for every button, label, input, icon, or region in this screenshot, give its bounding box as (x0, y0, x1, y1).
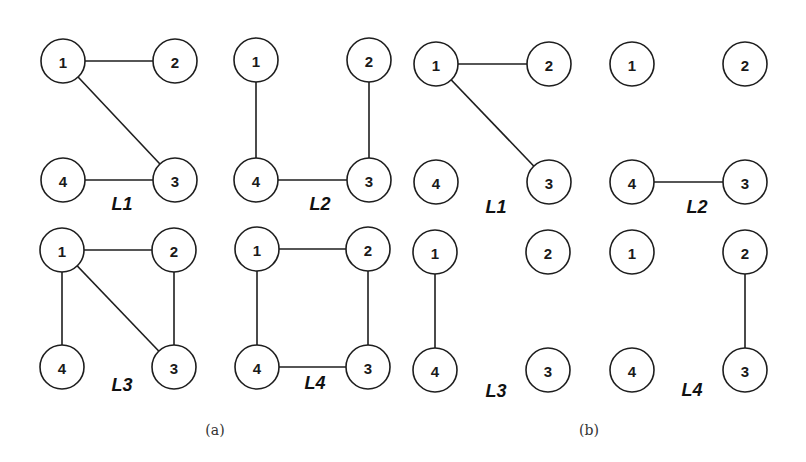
node-label: 4 (628, 363, 637, 380)
graph-panel-b-l3: 1234L3 (413, 230, 570, 401)
node-label: 3 (741, 363, 749, 380)
graph-node-4: 4 (610, 160, 654, 204)
graph-node-2: 2 (723, 230, 767, 274)
captions: (a)(b) (205, 422, 599, 438)
node-label: 2 (365, 53, 373, 70)
layer-label: L4 (681, 380, 702, 400)
graph-node-4: 4 (234, 158, 278, 202)
subfigure-caption-a: (a) (205, 422, 224, 438)
graph-node-4: 4 (413, 348, 457, 392)
node-label: 2 (545, 57, 553, 74)
graph-panel-a-l4: 1234L4 (235, 227, 390, 393)
graph-node-2: 2 (723, 42, 767, 86)
node-label: 3 (545, 175, 553, 192)
graph-panel-b-l1: 1234L1 (414, 42, 571, 217)
node-label: 4 (253, 360, 262, 377)
layer-label: L1 (485, 197, 506, 217)
graph-node-4: 4 (41, 158, 85, 202)
graph-node-1: 1 (414, 42, 458, 86)
node-label: 4 (628, 175, 637, 192)
graph-panel-a-l3: 1234L3 (40, 228, 196, 395)
graph-node-3: 3 (723, 348, 767, 392)
node-label: 2 (741, 245, 749, 262)
graph-node-4: 4 (610, 348, 654, 392)
graph-node-1: 1 (610, 230, 654, 274)
graph-node-2: 2 (153, 39, 197, 83)
node-label: 2 (544, 245, 552, 262)
node-label: 3 (544, 363, 552, 380)
graph-node-3: 3 (527, 160, 571, 204)
graph-node-4: 4 (40, 345, 84, 389)
graph-node-1: 1 (41, 39, 85, 83)
node-label: 1 (628, 245, 636, 262)
node-label: 4 (252, 173, 261, 190)
layer-label: L3 (111, 375, 132, 395)
graph-node-3: 3 (346, 345, 390, 389)
layer-label: L2 (309, 194, 330, 214)
graph-panel-b-l2: 1234L2 (610, 42, 767, 217)
graph-node-1: 1 (235, 227, 279, 271)
graph-node-3: 3 (152, 345, 196, 389)
node-label: 1 (628, 57, 636, 74)
node-label: 1 (431, 245, 439, 262)
node-label: 1 (59, 54, 67, 71)
node-label: 2 (741, 57, 749, 74)
layer-label: L3 (485, 381, 506, 401)
subfigure-caption-b: (b) (579, 422, 599, 438)
graph-node-3: 3 (153, 158, 197, 202)
graph-panel-a-l2: 1234L2 (234, 38, 391, 214)
graph-node-3: 3 (526, 348, 570, 392)
node-label: 1 (252, 53, 260, 70)
node-label: 1 (432, 57, 440, 74)
panels: 1234L11234L21234L11234L21234L31234L41234… (40, 38, 767, 401)
node-label: 4 (432, 175, 441, 192)
node-label: 4 (58, 360, 67, 377)
graph-node-2: 2 (346, 227, 390, 271)
edge-1-3 (63, 61, 175, 180)
layer-label: L1 (111, 194, 132, 214)
graph-node-1: 1 (413, 230, 457, 274)
graph-node-2: 2 (527, 42, 571, 86)
node-label: 3 (741, 175, 749, 192)
graph-panel-b-l4: 1234L4 (610, 230, 767, 400)
graph-node-4: 4 (414, 160, 458, 204)
node-label: 3 (364, 360, 372, 377)
edge-1-3 (436, 64, 549, 182)
node-label: 2 (171, 54, 179, 71)
node-label: 1 (58, 243, 66, 260)
node-label: 2 (170, 243, 178, 260)
node-label: 3 (365, 173, 373, 190)
graph-node-1: 1 (610, 42, 654, 86)
graph-node-4: 4 (235, 345, 279, 389)
graph-node-2: 2 (347, 38, 391, 82)
edge-1-3 (62, 250, 174, 367)
graph-node-2: 2 (152, 228, 196, 272)
graph-panel-a-l1: 1234L1 (41, 39, 197, 214)
node-label: 4 (59, 173, 68, 190)
node-label: 2 (364, 242, 372, 259)
graph-node-2: 2 (526, 230, 570, 274)
layer-label: L2 (686, 197, 707, 217)
node-label: 1 (253, 242, 261, 259)
graph-node-3: 3 (347, 158, 391, 202)
layered-graph-figure: 1234L11234L21234L11234L21234L31234L41234… (0, 0, 806, 462)
layer-label: L4 (304, 373, 325, 393)
graph-node-3: 3 (723, 160, 767, 204)
node-label: 3 (171, 173, 179, 190)
graph-node-1: 1 (234, 38, 278, 82)
node-label: 3 (170, 360, 178, 377)
node-label: 4 (431, 363, 440, 380)
graph-node-1: 1 (40, 228, 84, 272)
